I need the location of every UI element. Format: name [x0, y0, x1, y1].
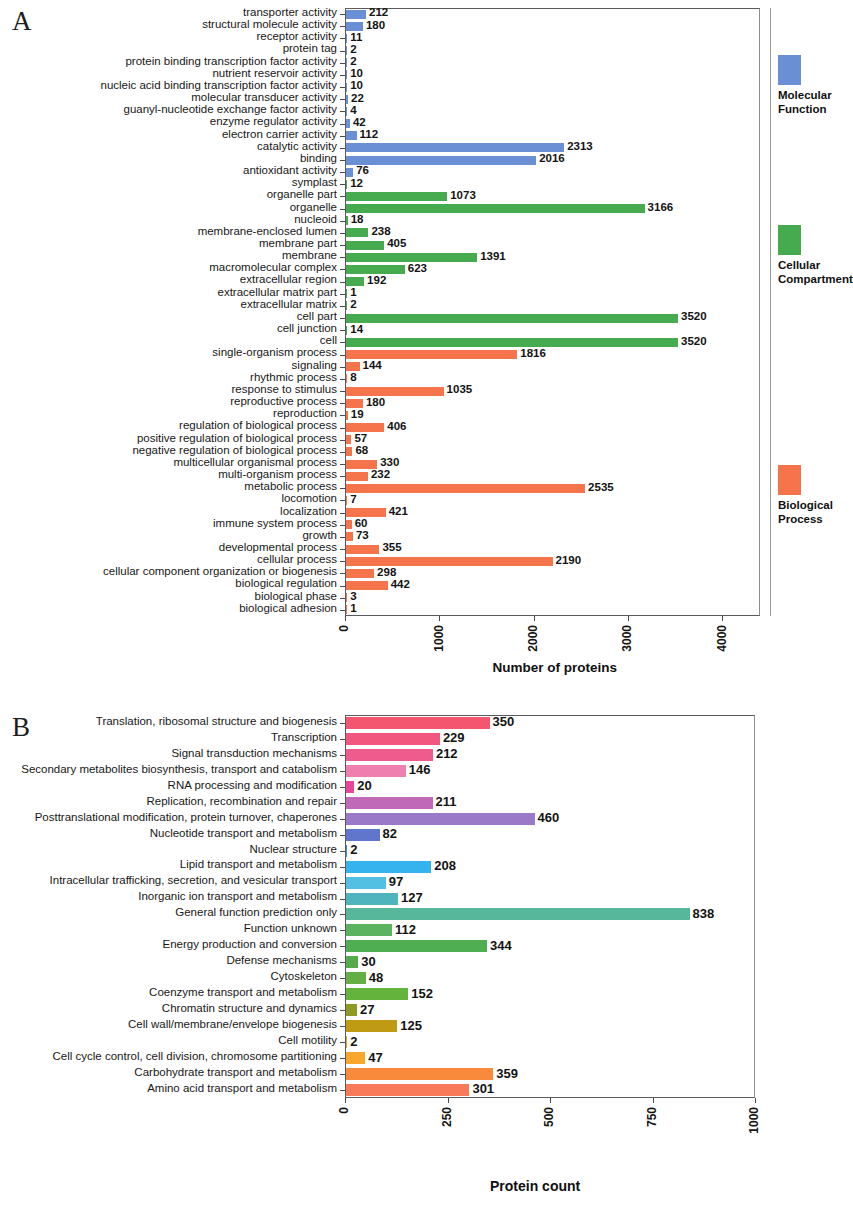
bar-value-label: 68 — [355, 445, 368, 457]
axis-tick-y — [340, 136, 345, 137]
bar-value-label: 355 — [382, 542, 401, 554]
axis-tick-y — [340, 561, 345, 562]
category-label: positive regulation of biological proces… — [137, 433, 337, 445]
go-annotation-chart: transporter activity212structural molecu… — [0, 0, 810, 690]
category-label: cell junction — [277, 323, 337, 335]
axis-tick-y — [340, 723, 345, 724]
axis-tick-y — [340, 87, 345, 88]
axis-tick-y — [340, 549, 345, 550]
legend-item: BiologicalProcess — [778, 465, 810, 535]
axis-tick-y — [340, 476, 345, 477]
axis-tick-label-x: 750 — [646, 1107, 658, 1127]
bar — [346, 908, 690, 920]
panel-b: B Translation, ribosomal structure and b… — [0, 690, 810, 1227]
category-label: transporter activity — [243, 7, 337, 19]
bar-value-label: 208 — [434, 859, 456, 872]
category-label: rhythmic process — [250, 372, 337, 384]
category-label: negative regulation of biological proces… — [132, 445, 337, 457]
category-label: membrane part — [259, 238, 337, 250]
category-label: locomotion — [281, 493, 337, 505]
axis-tick-y — [340, 403, 345, 404]
axis-tick-y — [340, 196, 345, 197]
bar-value-label: 19 — [351, 409, 364, 421]
axis-tick-y — [340, 739, 345, 740]
bar-value-label: 4 — [350, 105, 356, 117]
bar-value-label: 27 — [360, 1003, 374, 1016]
bar-value-label: 1391 — [480, 251, 506, 263]
category-label: Cell cycle control, cell division, chrom… — [53, 1051, 337, 1063]
bar — [346, 1052, 365, 1064]
category-label: localization — [280, 506, 337, 518]
axis-tick-y — [340, 440, 345, 441]
legend-label: Compartment — [778, 273, 853, 286]
bar-value-label: 2 — [350, 56, 356, 68]
bar-value-label: 2313 — [567, 141, 593, 153]
axis-tick-x — [550, 1098, 551, 1103]
axis-tick-y — [340, 464, 345, 465]
bar-value-label: 442 — [391, 579, 410, 591]
bar — [346, 1004, 357, 1016]
axis-tick-y — [340, 14, 345, 15]
bar-value-label: 1816 — [520, 348, 546, 360]
category-label: extracellular region — [240, 274, 337, 286]
axis-tick-label-x: 0 — [338, 625, 350, 632]
axis-tick-y — [340, 452, 345, 453]
axis-tick-y — [340, 598, 345, 599]
bar-value-label: 301 — [472, 1082, 494, 1095]
axis-tick-x — [439, 616, 440, 621]
axis-tick-y — [340, 573, 345, 574]
axis-tick-y — [340, 488, 345, 489]
category-label: biological adhesion — [239, 603, 337, 615]
axis-tick-y — [340, 415, 345, 416]
category-label: cell — [320, 335, 337, 347]
bar — [346, 180, 347, 189]
axis-tick-y — [340, 610, 345, 611]
bar-value-label: 2 — [350, 44, 356, 56]
bar — [346, 581, 388, 590]
category-label: reproductive process — [230, 396, 337, 408]
bar-value-label: 112 — [360, 129, 379, 141]
category-label: binding — [300, 153, 337, 165]
bar — [346, 605, 347, 614]
bar — [346, 253, 477, 262]
axis-tick-y — [340, 209, 345, 210]
bar — [346, 893, 398, 905]
axis-tick-y — [340, 257, 345, 258]
category-label: Energy production and conversion — [162, 939, 337, 951]
bar — [346, 168, 353, 177]
category-label: symplast — [292, 177, 337, 189]
bar — [346, 924, 392, 936]
category-label: signaling — [292, 360, 337, 372]
bar — [346, 387, 444, 396]
bar — [346, 58, 347, 67]
bar-value-label: 2 — [350, 299, 356, 311]
axis-tick-label-x: 250 — [441, 1107, 453, 1127]
category-label: Replication, recombination and repair — [147, 796, 338, 808]
category-label: Posttranslational modification, protein … — [35, 812, 337, 824]
bar-value-label: 3166 — [648, 202, 674, 214]
bar-value-label: 3520 — [681, 336, 707, 348]
bar — [346, 940, 487, 952]
bar-value-label: 57 — [354, 433, 367, 445]
axis-tick-y — [340, 525, 345, 526]
bar — [346, 119, 350, 128]
axis-tick-y — [340, 245, 345, 246]
category-label: RNA processing and modification — [168, 780, 337, 792]
category-label: organelle part — [267, 189, 337, 201]
axis-tick-y — [340, 160, 345, 161]
axis-tick-y — [340, 1090, 345, 1091]
axis-tick-x — [448, 1098, 449, 1103]
bar — [346, 988, 408, 1000]
bar — [346, 131, 357, 140]
bar-value-label: 211 — [436, 795, 457, 808]
bar-value-label: 127 — [401, 891, 423, 904]
legend-divider — [770, 8, 771, 616]
bar — [346, 460, 377, 469]
bar — [346, 70, 347, 79]
category-label: biological phase — [255, 591, 337, 603]
bar — [346, 399, 363, 408]
axis-tick-y — [340, 330, 345, 331]
category-label: multicellular organismal process — [173, 457, 337, 469]
category-label: catalytic activity — [257, 141, 337, 153]
bar — [346, 192, 447, 201]
